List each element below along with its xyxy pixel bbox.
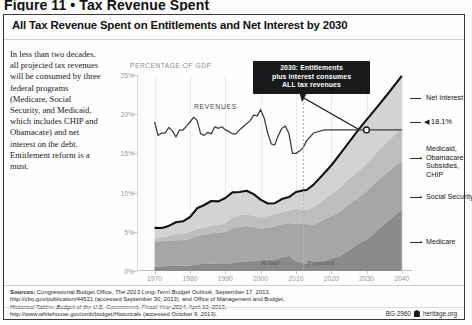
callout-2030: 2030: Entitlements plus interest consume… [253,61,370,94]
lead-social-security [410,197,421,198]
stacked-area-series [137,75,412,271]
callout-line-1: 2030: Entitlements [255,64,368,73]
y-label-0: 0% [124,268,134,275]
y-label-20: 20% [120,111,134,118]
x-tick-1990 [225,271,226,274]
x-tick-2030 [367,271,368,274]
actual-label: Actual [261,259,279,267]
x-label-2020: 2020 [324,275,339,282]
x-label-1990: 1990 [218,275,233,282]
revenues-series-label: REVENUES [194,103,237,110]
lead-pct-marker [410,122,421,123]
x-label-2000: 2000 [253,275,268,282]
footer-divider [4,307,464,308]
x-tick-2000 [261,271,262,274]
sources-label: Sources: [10,289,35,295]
site-url[interactable]: heritage.org [423,310,457,317]
label-medicaid-line-3: Subsidies, CHIP [426,162,472,179]
sources-divider [4,285,464,286]
sources-line-2: http://cbo.gov/publication/44521 (access… [10,296,340,303]
sources-note: Sources: Congressional Budget Office, Th… [10,289,340,319]
y-label-15: 15% [120,150,134,157]
figure-frame: All Tax Revenue Spent on Entitlements an… [3,14,465,320]
y-axis-caption: PERCENTAGE OF GDP [130,62,211,69]
x-tick-1970 [155,271,156,274]
x-label-1970: 1970 [147,275,162,282]
y-label-25: 25% [120,72,134,79]
explanatory-text: In less than two decades, all projected … [10,49,102,172]
label-medicaid: Medicaid, Obamacare Subsidies, CHIP [426,145,472,179]
callout-line-2: plus interest consumes [255,73,368,82]
callout-line-3: ALL tax revenues [255,81,368,90]
x-tick-2040 [402,271,403,274]
heritage-logo-icon [414,310,420,317]
chart-title: All Tax Revenue Spent on Entitlements an… [12,19,347,31]
sources-line-1b: September 17, 2013, [214,289,271,295]
title-divider [4,39,464,40]
projected-label: Projected [307,259,334,267]
x-tick-2010 [296,271,297,274]
label-social-security: Social Security [426,193,472,202]
figure-caption-cropped: Figure 11 • Tax Revenue Spent [4,0,304,11]
value-18-1-percent: ◀ 18.1% [424,117,452,126]
series-annotations: Net Interest ◀ 18.1% Medicaid, Obamacare… [416,75,472,275]
figure-page: Figure 11 • Tax Revenue Spent All Tax Re… [0,0,472,325]
x-label-2030: 2030 [359,275,374,282]
crossover-marker [364,127,370,133]
sources-line-4: http://www.whitehouse.gov/omb/budget/His… [10,311,340,318]
sources-line-1a: Congressional Budget Office, [35,289,115,295]
lead-medicaid [410,158,421,159]
x-label-2010: 2010 [288,275,303,282]
lead-net-interest [410,98,421,99]
y-label-5: 5% [124,228,134,235]
x-tick-2020 [331,271,332,274]
sources-line-1-italic: The 2013 Long-Term Budget Outlook, [115,289,214,295]
report-code: BG 2960 [386,310,411,317]
callout-pointer-line [300,97,364,131]
y-label-10: 10% [120,189,134,196]
sources-line-1: Sources: Congressional Budget Office, Th… [10,289,340,296]
label-net-interest: Net Interest [426,94,463,103]
x-tick-1980 [190,271,191,274]
x-label-2040: 2040 [394,275,409,282]
x-label-1980: 1980 [182,275,197,282]
lead-medicare [410,242,421,243]
label-medicare: Medicare [426,238,456,247]
footer-branding: BG 2960 heritage.org [386,310,457,317]
chart-plot-area: 25% 20% 15% 10% 5% 0% 1970 1980 1990 200… [137,75,412,271]
